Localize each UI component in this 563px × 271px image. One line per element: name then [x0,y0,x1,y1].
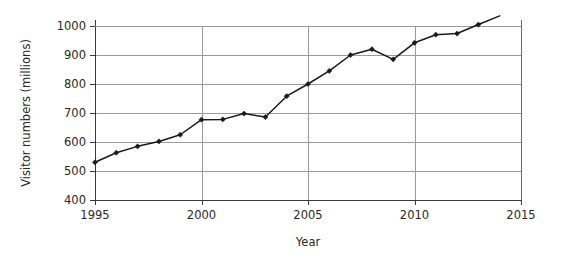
data-point-2008 [369,47,374,52]
y-tick-label-900: 900 [64,48,86,62]
data-point-1995 [92,160,97,165]
x-tick-label-2000: 2000 [187,208,216,222]
y-tick-label-400: 400 [64,193,86,207]
tick-marks-group [90,27,522,206]
chart-canvas: 4005006007008009001000199520002005201020… [0,0,563,271]
data-point-2011 [433,32,438,37]
series-line-visitors [95,16,500,162]
x-tick-label-2010: 2010 [400,208,429,222]
y-axis-title: Visitor numbers (millions) [19,39,33,187]
x-tick-labels-group: 19952000200520102015 [80,208,535,222]
line-chart: 4005006007008009001000199520002005201020… [0,0,563,271]
y-tick-labels-group: 4005006007008009001000 [57,19,86,207]
data-point-1997 [135,144,140,149]
data-point-2012 [455,31,460,36]
x-axis-title: Year [295,235,321,249]
data-point-1996 [114,150,119,155]
data-point-2002 [242,111,247,116]
gridlines-group [95,26,522,200]
x-tick-label-1995: 1995 [80,208,109,222]
y-tick-label-1000: 1000 [57,19,86,33]
y-tick-label-600: 600 [64,135,86,149]
data-point-2001 [220,117,225,122]
x-tick-label-2015: 2015 [506,208,535,222]
y-tick-label-500: 500 [64,164,86,178]
y-tick-label-700: 700 [64,106,86,120]
x-tick-label-2005: 2005 [293,208,322,222]
data-point-1998 [156,139,161,144]
y-tick-label-800: 800 [64,77,86,91]
